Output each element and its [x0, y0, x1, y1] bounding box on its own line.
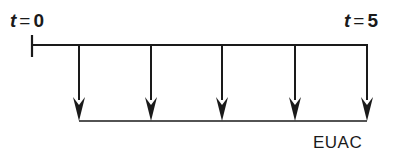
cash-flow-arrow-2 — [145, 45, 157, 121]
cash-flow-arrow-3 — [216, 45, 228, 121]
cash-flow-diagram: t=0 t=5 EUAC — [0, 0, 396, 161]
cash-flow-arrow-4 — [289, 45, 301, 121]
start-time-equals: = — [19, 10, 30, 31]
arrowhead-icon — [145, 97, 157, 121]
start-time-label: t=0 — [10, 11, 44, 30]
cash-flow-arrows — [73, 45, 373, 121]
end-time-label: t=5 — [344, 11, 378, 30]
end-time-equals: = — [353, 10, 364, 31]
end-time-variable: t — [344, 10, 350, 31]
arrowhead-icon — [361, 97, 373, 121]
end-time-value: 5 — [367, 10, 378, 31]
arrowhead-icon — [73, 97, 85, 121]
cash-flow-arrow-5 — [361, 45, 373, 121]
arrowhead-icon — [289, 97, 301, 121]
euac-label: EUAC — [313, 134, 362, 151]
start-time-variable: t — [10, 10, 16, 31]
arrowhead-icon — [216, 97, 228, 121]
start-time-value: 0 — [33, 10, 44, 31]
cash-flow-arrow-1 — [73, 45, 85, 121]
